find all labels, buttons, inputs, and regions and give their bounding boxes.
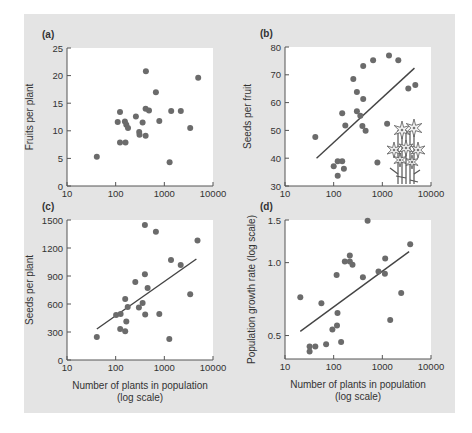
data-point [168,257,174,263]
data-point [142,271,148,277]
panel-label: (c) [42,201,54,212]
data-point [125,125,131,131]
panel-label: (a) [42,29,54,40]
y-tick-label: 0 [58,355,63,366]
data-point [187,125,193,131]
data-point [195,75,201,81]
data-point [142,222,148,228]
data-point [132,279,138,285]
x-tick-label: 1000 [372,188,393,199]
scatter-plot-figure: (a)101001000100000510152025Fruits per pl… [0,0,472,433]
x-tick-label: 1000 [154,188,175,199]
data-point [335,173,341,179]
data-point [376,268,382,274]
data-point [146,107,152,113]
data-point [312,344,318,350]
data-point [412,82,418,88]
data-point [125,304,131,310]
y-tick-label: 300 [47,327,63,338]
y-tick-label: 5 [58,153,63,164]
x-tick-label: 10 [280,188,291,199]
data-point [395,57,401,63]
x-tick-label: 10 [280,361,291,372]
x-tick-label: 10000 [418,188,444,199]
data-point [122,296,128,302]
data-point [342,122,348,128]
data-point [94,154,100,160]
y-tick-label: 15 [52,98,63,109]
x-tick-label: 1000 [154,362,175,373]
data-point [318,300,324,306]
data-point [387,317,393,323]
figure: (a)101001000100000510152025Fruits per pl… [0,0,472,433]
x-tick-label: 10000 [200,362,226,373]
data-point [354,89,360,95]
data-point [123,318,129,324]
data-point [334,323,340,329]
panel-label: (d) [260,201,273,212]
data-point [398,290,404,296]
data-point [145,285,151,291]
data-point [405,85,411,91]
data-point [143,133,149,139]
data-point [347,253,353,259]
data-point [178,108,184,114]
data-point [187,291,193,297]
y-tick-label: 40 [270,153,281,164]
x-tick-label: 100 [326,188,342,199]
data-point [382,271,388,277]
x-tick-label: 10 [62,362,73,373]
y-axis-label: Seeds per fruit [242,84,253,149]
y-axis-label: Population growth rate (log scale) [246,215,257,364]
data-point [335,310,341,316]
data-point [115,119,121,125]
y-axis-label: Fruits per plant [24,83,35,150]
y-tick-label: 25 [52,43,63,54]
x-axis-label-scale: (log scale) [117,392,163,403]
data-point [140,300,146,306]
y-tick-label: 20 [52,70,63,81]
x-tick-label: 100 [108,188,124,199]
y-tick-label: 900 [47,271,63,282]
y-tick-label: 1200 [42,243,63,254]
data-point [94,334,100,340]
data-point [118,311,124,317]
data-point [137,132,143,138]
y-tick-label: 600 [47,299,63,310]
data-point [331,163,337,169]
data-point [386,53,392,59]
y-tick-label: 1500 [42,215,63,226]
data-point [195,238,201,244]
data-point [142,311,148,317]
x-tick-label: 1000 [372,361,393,372]
data-point [153,229,159,235]
data-point [384,121,390,127]
data-point [341,166,347,172]
y-tick-label: 50 [270,125,281,136]
data-point [307,348,313,354]
data-point [360,274,366,280]
data-point [407,241,413,247]
x-axis-label: Number of plants in population [290,379,426,390]
data-point [357,113,363,119]
data-point [167,159,173,165]
data-point [153,89,159,95]
data-point [140,120,146,126]
x-axis-label-scale: (log scale) [335,391,381,402]
data-point [338,339,344,345]
y-tick-label: 30 [270,181,281,192]
panel-label: (b) [260,28,273,39]
plot-area [67,48,213,186]
data-point [156,311,162,317]
x-tick-label: 100 [108,362,124,373]
data-point [329,326,335,332]
data-point [374,160,380,166]
y-axis-label: Seeds per plant [24,255,35,325]
y-tick-label: 10 [52,125,63,136]
data-point [117,139,123,145]
x-tick-label: 10000 [418,361,444,372]
data-point [156,118,162,124]
data-point [334,272,340,278]
data-point [339,110,345,116]
data-point [370,57,376,63]
